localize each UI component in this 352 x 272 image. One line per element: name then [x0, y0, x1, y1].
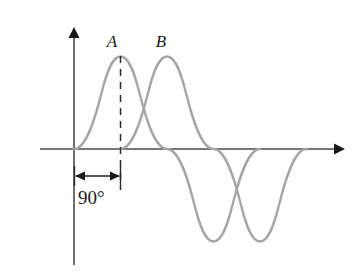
axes-group — [40, 27, 345, 265]
phase-difference-label: 90° — [78, 187, 105, 208]
sine-wave-phase-diagram: A B 90° — [0, 0, 352, 272]
arrow-up-icon — [69, 27, 80, 38]
curve-b-label: B — [156, 32, 167, 51]
figure-container: A B 90° — [0, 0, 352, 272]
arrow-left-icon — [75, 172, 85, 181]
phase-difference-annotation — [75, 166, 121, 186]
arrow-right-icon — [334, 144, 345, 155]
curve-a-label: A — [106, 32, 118, 51]
arrow-right-icon — [110, 172, 120, 181]
